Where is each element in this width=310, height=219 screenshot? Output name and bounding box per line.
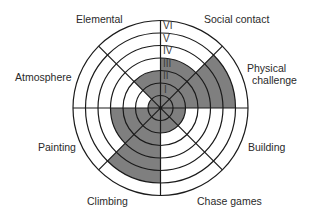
center-point [159, 106, 163, 110]
label-elemental: Elemental [76, 13, 123, 25]
sector-dividers [73, 21, 248, 196]
label-building: Building [248, 141, 285, 153]
level-label-ii: II [163, 71, 169, 81]
label-climbing: Climbing [87, 195, 128, 207]
label-physical-challenge-line2: challenge [252, 74, 297, 86]
label-painting: Painting [38, 141, 76, 153]
label-chase-games: Chase games [197, 195, 262, 207]
level-label-vi: VI [163, 21, 172, 31]
label-physical-challenge-line1: Physical [247, 62, 286, 74]
play-value-radial-diagram [0, 0, 310, 219]
label-social-contact: Social contact [204, 13, 269, 25]
label-atmosphere: Atmosphere [15, 71, 72, 83]
level-label-i: I [164, 85, 167, 95]
level-label-iii: III [163, 59, 171, 69]
shaded-sector-elemental [134, 71, 161, 109]
level-label-iv: IV [163, 46, 172, 56]
level-label-v: V [163, 34, 170, 44]
